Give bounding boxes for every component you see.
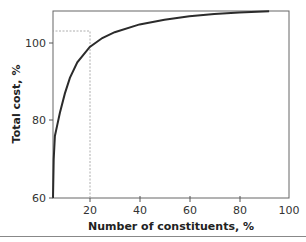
bottom-divider [0,236,306,237]
x-tick-100: 100 [279,204,300,217]
y-axis-ticks: 60 80 100 [25,37,53,205]
x-tick-20: 20 [83,204,97,217]
x-tick-60: 60 [183,204,197,217]
x-tick-40: 40 [133,204,147,217]
chart: 60 80 100 20 40 60 80 100 Number of cons… [0,0,306,242]
y-axis-label: Total cost, % [10,65,23,144]
y-tick-80: 80 [32,114,46,127]
y-tick-100: 100 [25,37,46,50]
y-tick-60: 60 [32,192,46,205]
plot-frame [53,11,289,198]
cost-curve [53,11,269,198]
x-tick-80: 80 [233,204,247,217]
x-axis-label: Number of constituents, % [88,220,254,233]
x-axis-ticks: 20 40 60 80 100 [83,196,300,217]
